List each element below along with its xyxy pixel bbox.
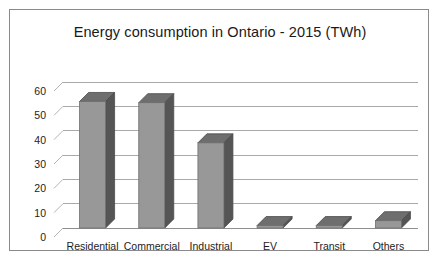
bar-front-face: [257, 226, 283, 228]
x-axis-category-labels: ResidentialCommercialIndustrialEVTransit…: [67, 240, 405, 252]
y-axis-tick-label: 30: [34, 158, 46, 170]
x-axis-category-label: EV: [263, 240, 277, 252]
y-axis-tick-labels: 0102030405060: [34, 85, 46, 243]
x-axis-category-label: Industrial: [190, 240, 233, 252]
y-axis-tick-label: 0: [40, 231, 46, 243]
bar-transit: [316, 217, 351, 228]
bar-front-face: [198, 143, 224, 228]
bar-industrial: [198, 134, 233, 228]
bar-chart-plot: 0102030405060 ResidentialCommercialIndus…: [10, 10, 430, 252]
y-axis-tick-label: 10: [34, 207, 46, 219]
y-axis-tick-label: 40: [34, 134, 46, 146]
bar-front-face: [375, 221, 401, 228]
gridline-depth-connector: [54, 179, 63, 188]
bar-residential: [80, 92, 115, 228]
y-axis-tick-label: 20: [34, 182, 46, 194]
bar-series: [80, 92, 411, 228]
bar-front-face: [80, 101, 106, 228]
gridline-depth-connector: [54, 82, 63, 91]
x-axis-category-label: Residential: [67, 240, 119, 252]
bar-side-face: [106, 92, 115, 228]
y-axis-tick-label: 60: [34, 85, 46, 97]
bar-others: [375, 212, 410, 228]
y-axis-tick-label: 50: [34, 109, 46, 121]
chart-frame: Energy consumption in Ontario - 2015 (TW…: [9, 9, 429, 251]
bar-front-face: [316, 226, 342, 228]
bar-front-face: [139, 103, 165, 228]
gridline-depth-connector: [54, 155, 63, 164]
gridline-depth-connector: [54, 131, 63, 140]
bar-side-face: [224, 134, 233, 228]
bar-commercial: [139, 94, 174, 228]
gridline-depth-connector: [54, 106, 63, 115]
bar-side-face: [165, 94, 174, 228]
x-axis-category-label: Transit: [313, 240, 345, 252]
bar-ev: [257, 217, 292, 228]
gridline-depth-connector: [54, 204, 63, 213]
gridline-depth-connector: [54, 228, 63, 237]
x-axis-category-label: Commercial: [124, 240, 180, 252]
x-axis-category-label: Others: [373, 240, 405, 252]
